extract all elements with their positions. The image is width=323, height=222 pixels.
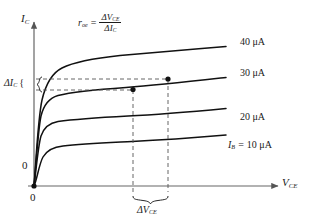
delta-vce-label: ΔVCE (137, 205, 157, 215)
point-right (165, 76, 170, 81)
origin-label-y: 0 (22, 160, 28, 171)
dashed-lines-vertical (133, 79, 168, 192)
origin-label-x: 0 (30, 192, 36, 203)
curve-10uA (34, 135, 226, 186)
formula-symbol: roe (78, 17, 88, 28)
formula-fraction: ΔVCEΔIC (99, 12, 121, 33)
formula-numerator: ΔVCE (99, 12, 121, 23)
curve-30uA (34, 78, 226, 187)
delta-ic-label: ΔIC{ (4, 78, 24, 88)
x-axis-label: VCE (282, 177, 297, 188)
curve-label-30ua: 30 μA (240, 68, 265, 78)
formula-equals: = (88, 17, 100, 28)
curve-label-10ua: IB=10 μA (228, 140, 272, 150)
point-left (130, 87, 135, 92)
delta-vce-underbrace (133, 196, 168, 204)
curve-label-20ua: 20 μA (240, 112, 265, 122)
y-axis-label: IC (21, 13, 29, 24)
output-resistance-formula: roe=ΔVCEΔIC (78, 12, 121, 33)
curve-label-40ua: 40 μA (240, 37, 265, 47)
dashed-lines-horizontal (36, 79, 170, 90)
chart-canvas (0, 0, 323, 222)
curve-20uA (34, 109, 226, 187)
curve-group (34, 47, 226, 187)
transistor-output-characteristics-figure: IC VCE 0 0 roe=ΔVCEΔIC ΔIC{ ΔVCE 40 μA 3… (0, 0, 323, 222)
formula-denominator: ΔIC (99, 23, 121, 33)
